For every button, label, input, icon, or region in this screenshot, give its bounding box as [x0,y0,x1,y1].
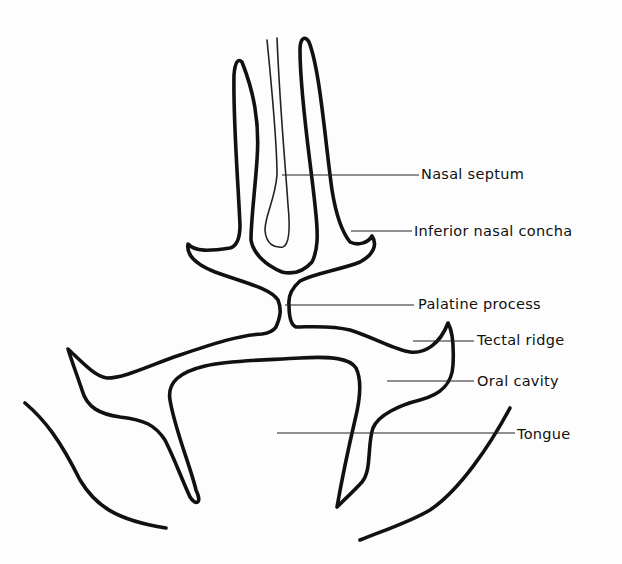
label-palatine-process: Palatine process [418,297,541,312]
right-jaw-outline [360,408,510,540]
anatomy-drawing [0,0,622,564]
label-inferior-nasal-concha: Inferior nasal concha [414,224,572,239]
nasal-septum-line [265,38,289,247]
label-oral-cavity: Oral cavity [477,374,559,389]
label-nasal-septum: Nasal septum [421,167,524,182]
nasal-palate-outline [68,38,453,507]
label-tectal-ridge: Tectal ridge [477,333,564,348]
diagram-canvas: Nasal septum Inferior nasal concha Palat… [0,0,622,564]
label-tongue: Tongue [517,427,571,442]
